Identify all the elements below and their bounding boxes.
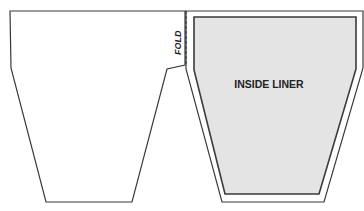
liner-label: INSIDE LINER bbox=[234, 78, 304, 90]
pattern-diagram: FOLD INSIDE LINER bbox=[0, 0, 364, 211]
left-pattern-piece bbox=[10, 11, 185, 202]
fold-label: FOLD bbox=[173, 30, 183, 55]
